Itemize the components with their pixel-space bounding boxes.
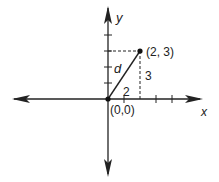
point-label: (2, 3): [146, 45, 174, 59]
x-axis-label: x: [200, 105, 208, 119]
point-2-3: [137, 48, 142, 53]
origin-label: (0,0): [110, 103, 135, 117]
y-axis: [104, 6, 112, 177]
y-axis-label: y: [115, 10, 124, 25]
hypotenuse-label: d: [114, 61, 122, 76]
coordinate-diagram: y x (2, 3) (0,0) d 2 3: [0, 0, 219, 182]
origin-point: [105, 96, 110, 101]
horizontal-leg-label: 2: [123, 85, 130, 99]
vertical-leg-label: 3: [145, 69, 152, 83]
